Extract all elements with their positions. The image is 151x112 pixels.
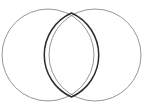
venn-diagram-canvas: Two overlapping circles with highlighted…	[0, 0, 151, 112]
venn-diagram-figure: Two overlapping circles with highlighted…	[0, 0, 151, 112]
